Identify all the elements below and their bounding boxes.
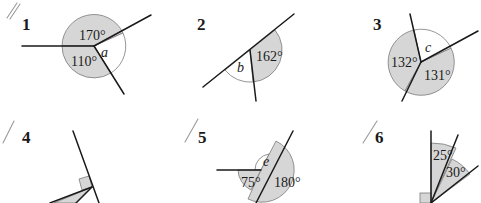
right-angle-marker [420, 193, 431, 203]
problem-number: 6 [375, 128, 384, 147]
pencil-tick-mark [3, 121, 14, 143]
problem-3: 3 132° 131° c [373, 14, 478, 101]
angle-label: 180° [274, 175, 301, 190]
problem-number: 5 [198, 128, 207, 147]
angle-label: 132° [391, 55, 418, 70]
problem-4: 4 [3, 121, 99, 203]
pencil-tick-mark [185, 119, 198, 142]
problem-5: 5 75° 180° e [185, 119, 301, 203]
angle-label: 162° [256, 49, 283, 64]
angles-worksheet: 1 170° 110° a 2 162° b 3 132° 131° [0, 0, 481, 203]
problem-6: 6 25° 30° [363, 121, 478, 203]
unknown-angle-label: b [237, 60, 244, 75]
problem-number: 2 [197, 15, 206, 34]
problem-number: 4 [22, 128, 31, 147]
unknown-angle-label: a [101, 45, 108, 60]
problem-2: 2 162° b [197, 14, 294, 101]
angle-label: 25° [433, 148, 453, 163]
angle-label: 131° [424, 68, 451, 83]
problem-number: 3 [373, 15, 382, 34]
angle-label: 75° [241, 175, 261, 190]
problem-number: 1 [22, 15, 31, 34]
problem-1: 1 170° 110° a [7, 3, 151, 94]
angle-label: 110° [71, 54, 97, 69]
unknown-angle-label: e [263, 154, 269, 169]
angle-label: 170° [79, 28, 106, 43]
unknown-angle-label: c [425, 40, 432, 55]
angle-label: 30° [446, 165, 466, 180]
